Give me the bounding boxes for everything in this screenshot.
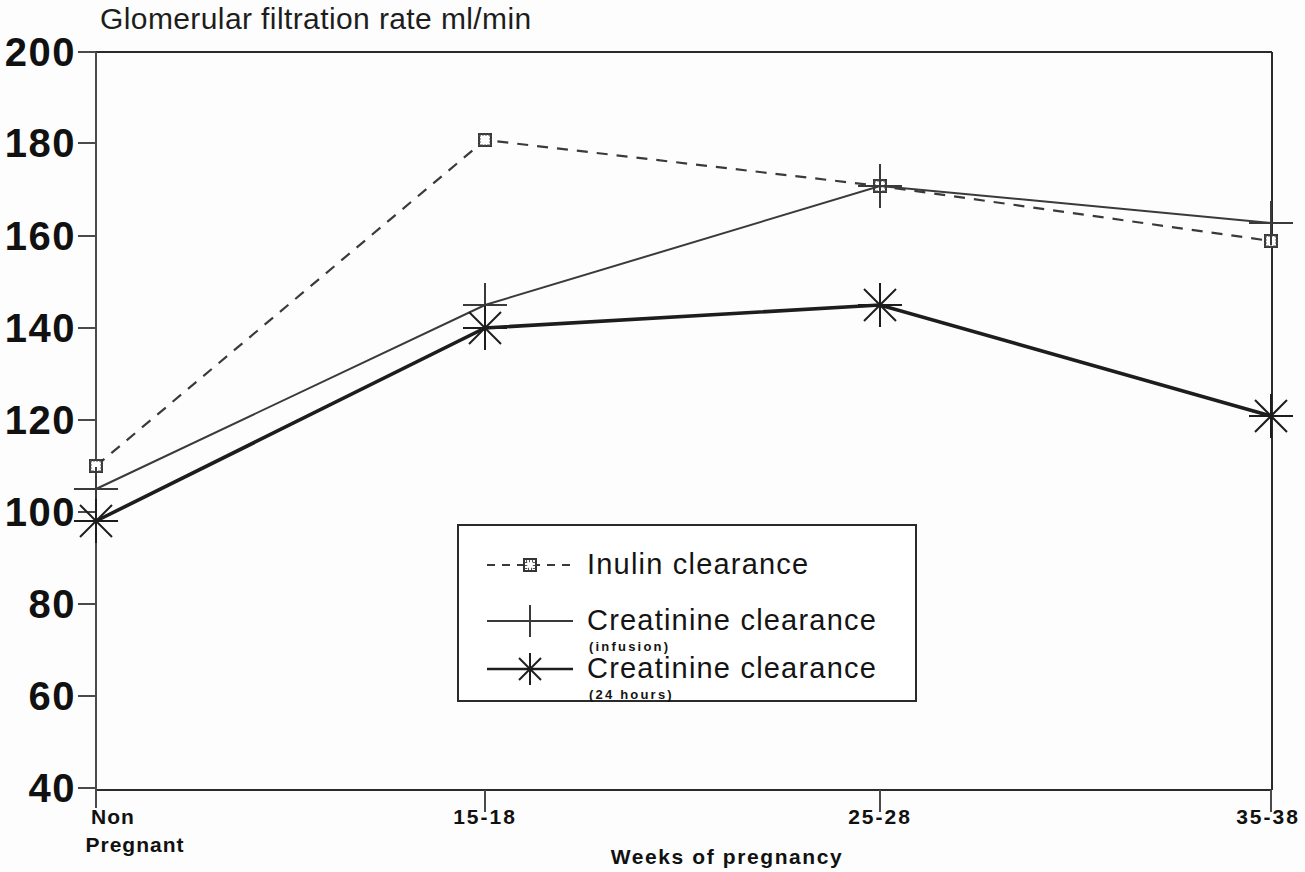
series-inulin-clearance (90, 134, 1277, 472)
y-tick-label-160: 160 (0, 216, 76, 256)
y-tick-marks (78, 52, 96, 788)
y-tick-label-40: 40 (0, 768, 76, 808)
marker-asterisk-24h-1 (463, 306, 507, 350)
marker-asterisk-24h-3 (1249, 394, 1293, 438)
x-tick-label-pregnant: Pregnant (85, 833, 184, 857)
chart-legend: Inulin clearance Creatinine clearance (i… (457, 524, 917, 702)
series-creatinine-24h-line (96, 305, 1271, 521)
x-tick-label-non: Non (91, 805, 135, 829)
x-axis-title: Weeks of pregnancy (611, 845, 844, 869)
y-tick-label-200: 200 (0, 32, 76, 72)
legend-sample-asterisk-icon (487, 652, 573, 686)
y-tick-label-100: 100 (0, 492, 76, 532)
y-tick-label-120: 120 (0, 400, 76, 440)
legend-label-creatinine-24h: Creatinine clearance (587, 654, 877, 683)
series-creatinine-infusion (74, 164, 1293, 511)
series-inulin-line (96, 140, 1271, 466)
y-tick-label-60: 60 (0, 676, 76, 716)
marker-asterisk-24h-0 (74, 499, 118, 543)
x-tick-marks (96, 772, 1271, 812)
y-tick-label-180: 180 (0, 123, 76, 163)
legend-sample-plus-icon (487, 604, 573, 638)
marker-asterisk-24h-2 (858, 283, 902, 327)
y-tick-label-80: 80 (0, 584, 76, 624)
y-tick-label-140: 140 (0, 308, 76, 348)
x-tick-label-15-18: 15-18 (453, 805, 517, 829)
legend-sublabel-24-hours: (24 hours) (589, 688, 674, 701)
x-tick-label-35-38: 35-38 (1236, 805, 1300, 829)
chart-page: Glomerular filtration rate ml/min (0, 0, 1305, 872)
chart-plot-area (0, 0, 1305, 872)
legend-label-inulin: Inulin clearance (587, 550, 809, 579)
marker-plus-infusion-2 (858, 164, 902, 208)
x-tick-label-25-28: 25-28 (848, 805, 912, 829)
series-creatinine-infusion-line (96, 186, 1271, 489)
legend-sample-inulin-dashed-square-icon (487, 548, 573, 582)
legend-label-creatinine-infusion: Creatinine clearance (587, 606, 877, 635)
